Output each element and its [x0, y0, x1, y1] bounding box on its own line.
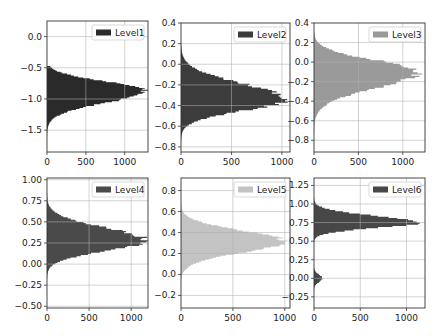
legend-swatch — [373, 187, 388, 193]
y-tick-label: −1.0 — [20, 94, 42, 104]
subplot-level3: 0.40.20.0−0.2−0.4−0.6−0.805001000Level3 — [287, 18, 425, 167]
x-tick-label: 1000 — [395, 313, 418, 323]
legend: Level4 — [92, 182, 145, 197]
y-tick-label: 0.0 — [162, 269, 177, 279]
subplot-level1: 0.0−0.5−1.0−1.505001000Level1 — [20, 21, 148, 167]
y-tick-label: 0.00 — [289, 273, 309, 283]
x-tick-label: 500 — [224, 313, 241, 323]
y-tick-label: −0.2 — [287, 77, 309, 87]
x-tick-label: 0 — [311, 313, 317, 323]
y-tick-label: 0.75 — [22, 196, 42, 206]
y-tick-label: 1.00 — [289, 199, 309, 209]
histogram-bars — [47, 192, 150, 279]
histogram-bars — [181, 202, 288, 283]
y-tick-label: 0.50 — [22, 217, 42, 227]
y-tick-label: −0.2 — [154, 290, 176, 300]
subplot-level4: 1.000.750.500.250.00−0.25−0.5005001000Le… — [14, 175, 149, 323]
histogram-figure: 0.0−0.5−1.0−1.505001000Level10.40.20.0−0… — [0, 0, 444, 336]
subplot-level5: 0.80.60.40.20.0−0.205001000Level5 — [154, 178, 296, 323]
x-tick-label: 1000 — [113, 157, 136, 167]
y-tick-label: 0.75 — [289, 218, 309, 228]
histogram-bars — [47, 66, 149, 136]
legend-swatch — [373, 32, 388, 38]
histogram-bars — [314, 33, 422, 132]
histogram-bars — [314, 197, 420, 289]
y-tick-label: 0.4 — [295, 18, 310, 28]
subplot-level2: 0.40.20.0−0.2−0.4−0.6−0.805001000Level2 — [154, 18, 294, 167]
y-tick-label: 0.4 — [162, 18, 177, 28]
legend-swatch — [96, 187, 111, 193]
y-tick-label: −0.25 — [14, 280, 42, 290]
legend: Level2 — [234, 27, 286, 42]
legend-label: Level1 — [115, 28, 144, 38]
x-tick-label: 0 — [44, 313, 50, 323]
x-tick-label: 500 — [350, 157, 367, 167]
y-tick-label: 1.25 — [289, 180, 309, 190]
legend-label: Level5 — [257, 185, 286, 195]
legend: Level6 — [369, 182, 422, 197]
y-tick-label: −0.8 — [154, 142, 176, 152]
legend-swatch — [96, 30, 111, 36]
y-tick-label: −0.6 — [154, 121, 176, 131]
legend-label: Level4 — [115, 185, 145, 195]
y-tick-label: −0.4 — [287, 96, 309, 106]
legend-swatch — [238, 187, 253, 193]
y-tick-label: 0.50 — [289, 236, 309, 246]
grid-lines — [47, 178, 148, 308]
x-tick-label: 500 — [80, 313, 97, 323]
y-tick-label: 0.2 — [162, 248, 176, 258]
x-tick-label: 500 — [352, 313, 369, 323]
legend-swatch — [238, 32, 253, 38]
y-tick-label: 0.8 — [162, 186, 177, 196]
y-tick-label: −0.2 — [154, 80, 176, 90]
legend-label: Level2 — [257, 30, 286, 40]
y-tick-label: 1.00 — [22, 175, 42, 185]
y-tick-label: 0.6 — [162, 207, 177, 217]
y-tick-label: −0.25 — [281, 292, 309, 302]
y-tick-label: 0.2 — [295, 38, 309, 48]
x-tick-label: 1000 — [270, 157, 293, 167]
y-tick-label: 0.25 — [22, 238, 42, 248]
legend-label: Level3 — [392, 30, 421, 40]
y-tick-label: 0.00 — [22, 259, 42, 269]
x-tick-label: 500 — [77, 157, 94, 167]
x-tick-label: 1000 — [273, 313, 296, 323]
y-tick-label: 0.0 — [28, 32, 43, 42]
x-tick-label: 0 — [44, 157, 50, 167]
legend: Level1 — [92, 25, 144, 40]
y-tick-label: −0.50 — [14, 301, 42, 311]
legend: Level3 — [369, 27, 421, 42]
x-tick-label: 0 — [178, 313, 184, 323]
y-tick-label: −0.4 — [154, 101, 176, 111]
x-tick-label: 1000 — [391, 157, 414, 167]
y-tick-label: −0.5 — [20, 63, 42, 73]
y-tick-label: 0.0 — [162, 59, 177, 69]
y-tick-label: 0.4 — [162, 228, 177, 238]
legend-label: Level6 — [392, 185, 422, 195]
x-tick-label: 1000 — [120, 313, 143, 323]
y-tick-label: −1.5 — [20, 125, 42, 135]
subplot-level6: 1.251.000.750.500.250.00−0.2505001000Lev… — [281, 178, 425, 323]
legend: Level5 — [234, 182, 286, 197]
y-tick-label: 0.25 — [289, 255, 309, 265]
grid-lines — [314, 178, 425, 308]
histogram-bars — [181, 42, 288, 142]
axes-frame — [314, 178, 425, 308]
y-tick-label: 0.0 — [295, 57, 310, 67]
y-tick-label: 0.2 — [162, 39, 176, 49]
x-tick-label: 0 — [311, 157, 317, 167]
y-tick-label: −0.6 — [287, 116, 309, 126]
x-tick-label: 0 — [178, 157, 184, 167]
x-tick-label: 500 — [223, 157, 240, 167]
y-tick-label: −0.8 — [287, 135, 309, 145]
